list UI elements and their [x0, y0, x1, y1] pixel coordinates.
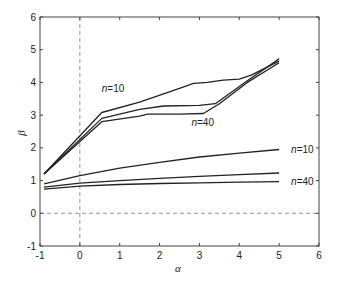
series-line-4 [44, 173, 279, 187]
curve-annotation: n=10 [102, 83, 125, 94]
y-tick-label: 1 [30, 175, 36, 186]
ticks-layer: -10123456-10123456 [27, 12, 322, 262]
y-axis-label: β [15, 130, 27, 137]
series-line-0 [44, 61, 279, 174]
curve-annotation: n=40 [191, 117, 214, 128]
x-tick-label: 0 [77, 250, 83, 261]
reference-lines [40, 17, 319, 246]
series-line-1 [44, 59, 279, 174]
y-tick-label: 4 [30, 77, 36, 88]
y-tick-label: -1 [27, 241, 36, 252]
x-tick-label: 1 [117, 250, 123, 261]
series-line-2 [44, 63, 279, 174]
series-layer [44, 59, 279, 189]
x-tick-label: 5 [276, 250, 282, 261]
line-chart: -10123456-10123456 n=10n=40n=10n=40 α β [0, 0, 338, 282]
plot-border [40, 17, 319, 246]
curve-annotation: n=10 [291, 144, 314, 155]
y-tick-label: 0 [30, 208, 36, 219]
x-tick-label: 3 [197, 250, 203, 261]
x-tick-label: 4 [237, 250, 243, 261]
y-tick-label: 3 [30, 110, 36, 121]
y-tick-label: 2 [30, 142, 36, 153]
y-tick-label: 5 [30, 44, 36, 55]
annotations-layer: n=10n=40n=10n=40 [102, 83, 314, 187]
x-tick-label: -1 [36, 250, 45, 261]
plot-frame [40, 17, 319, 246]
chart-svg: -10123456-10123456 n=10n=40n=10n=40 α β [0, 0, 338, 282]
x-axis-label: α [175, 262, 181, 274]
x-tick-label: 6 [316, 250, 322, 261]
curve-annotation: n=40 [291, 176, 314, 187]
y-tick-label: 6 [30, 12, 36, 23]
x-tick-label: 2 [157, 250, 163, 261]
